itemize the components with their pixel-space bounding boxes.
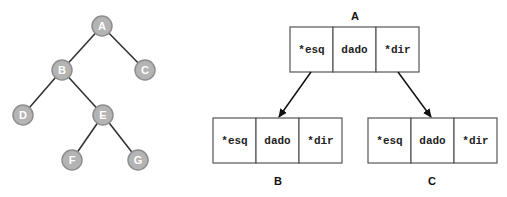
struct-label-b: B (274, 175, 282, 187)
tree-node-c: C (135, 60, 155, 80)
diagram-canvas: A B C D E F G A *esq dado *dir * (0, 0, 507, 197)
node-label: B (58, 64, 66, 76)
struct-label-a: A (351, 10, 359, 22)
node-label: F (69, 154, 76, 166)
struct-label-c: C (428, 175, 436, 187)
field-esq: *esq (221, 135, 247, 147)
field-esq: *esq (298, 44, 324, 56)
field-dado: dado (264, 135, 291, 147)
struct-b: *esq dado *dir (213, 118, 342, 163)
node-label: E (99, 109, 106, 121)
field-dado: dado (419, 135, 446, 147)
tree-node-d: D (13, 105, 33, 125)
field-dado: dado (341, 44, 368, 56)
tree-node-e: E (93, 105, 113, 125)
arrow-a-to-b (279, 72, 311, 117)
tree-node-g: G (128, 150, 148, 170)
field-dir: *dir (462, 135, 488, 147)
node-label: G (134, 154, 143, 166)
struct-a: *esq dado *dir (290, 27, 419, 72)
tree-node-b: B (52, 60, 72, 80)
node-label: D (19, 109, 27, 121)
field-dir: *dir (307, 135, 333, 147)
arrow-a-to-c (398, 72, 431, 117)
tree-edges (23, 26, 145, 160)
struct-c: *esq dado *dir (368, 118, 497, 163)
node-label: C (141, 64, 149, 76)
field-dir: *dir (384, 44, 410, 56)
field-esq: *esq (376, 135, 402, 147)
tree-node-a: A (92, 16, 112, 36)
node-label: A (98, 20, 106, 32)
tree-node-f: F (62, 150, 82, 170)
